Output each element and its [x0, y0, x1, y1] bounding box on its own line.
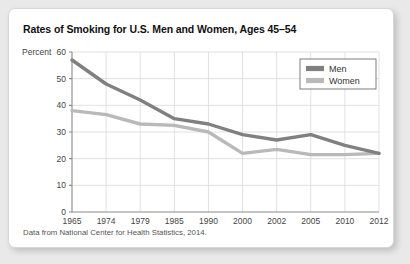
legend-label-women: Women: [329, 76, 360, 86]
x-axis-tick-label: 1990: [199, 216, 218, 226]
y-axis-tick-label: 60: [57, 47, 67, 57]
x-axis-tick-label: 2012: [370, 216, 389, 226]
legend-swatch-men: [306, 66, 324, 71]
y-axis-tick-label: 50: [57, 74, 67, 84]
x-axis-tick-label: 2002: [267, 216, 286, 226]
x-axis-tick-labels: 1965197419791985199020002002200520102012: [63, 216, 389, 226]
x-axis-tick-label: 1965: [63, 216, 82, 226]
x-axis-tick-label: 2000: [233, 216, 252, 226]
y-axis-tick-label: 10: [57, 180, 67, 190]
x-axis-tick-label: 1979: [131, 216, 150, 226]
x-axis-tick-label: 2005: [301, 216, 320, 226]
y-axis-tick-label: 40: [57, 100, 67, 110]
y-axis-tick-label: 20: [57, 154, 67, 164]
figure-card: Rates of Smoking for U.S. Men and Women,…: [8, 8, 394, 248]
legend-swatch-women: [306, 78, 324, 83]
line-chart-plot: 0102030405060 19651974197919851990200020…: [9, 9, 394, 248]
x-axis-tick-label: 1974: [97, 216, 116, 226]
legend-label-men: Men: [329, 64, 347, 74]
series-line-women: [72, 111, 379, 155]
y-axis-tick-label: 30: [57, 127, 67, 137]
y-axis-tick-labels: 0102030405060: [57, 47, 67, 217]
chart-legend: MenWomen: [300, 59, 376, 89]
source-note: Data from National Center for Health Sta…: [23, 228, 207, 237]
x-axis-tick-label: 2010: [335, 216, 354, 226]
x-axis-tick-label: 1985: [165, 216, 184, 226]
